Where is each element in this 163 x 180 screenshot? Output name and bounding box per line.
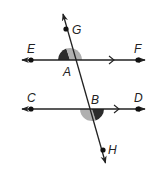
point-F [135, 57, 140, 62]
label-H: H [108, 143, 117, 157]
label-C: C [27, 91, 36, 105]
label-A: A [62, 65, 71, 79]
transversal-diagram: G E F A C B D H [0, 0, 163, 180]
point-D [135, 106, 140, 111]
point-G [63, 26, 68, 31]
label-E: E [27, 42, 36, 56]
point-E [28, 57, 33, 62]
angles-at-A [58, 48, 82, 60]
label-F: F [134, 42, 142, 56]
point-H [100, 147, 105, 152]
label-G: G [72, 23, 81, 37]
transversal-GH [63, 14, 106, 163]
point-C [28, 106, 33, 111]
label-D: D [134, 91, 143, 105]
label-B: B [91, 93, 99, 107]
